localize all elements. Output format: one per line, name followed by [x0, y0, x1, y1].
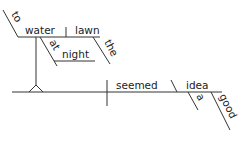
- word-to: to: [9, 9, 25, 24]
- pedestal-fork: [29, 85, 43, 92]
- complement-backslash: [171, 80, 177, 92]
- word-idea: idea: [186, 79, 208, 91]
- word-a: a: [194, 91, 208, 103]
- word-good: good: [217, 91, 240, 120]
- infinitive-phrase: to water lawn the at night: [3, 9, 121, 92]
- word-at: at: [47, 37, 63, 52]
- word-seemed: seemed: [116, 79, 158, 91]
- word-lawn: lawn: [75, 24, 100, 36]
- word-the: the: [102, 37, 121, 58]
- predicate: seemed idea a good: [116, 79, 240, 130]
- sentence-diagram: to water lawn the at night seemed idea a…: [0, 0, 244, 142]
- word-night: night: [62, 48, 89, 60]
- word-water: water: [25, 24, 56, 36]
